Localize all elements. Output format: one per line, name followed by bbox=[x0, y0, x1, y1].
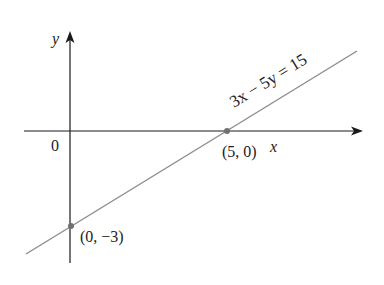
graph-canvas: y x 0 (5, 0) (0, −3) 3x − 5y = 15 bbox=[0, 0, 384, 285]
origin-label: 0 bbox=[51, 137, 59, 154]
x-intercept-point bbox=[224, 128, 230, 134]
y-intercept-point bbox=[68, 223, 74, 229]
x-intercept-label: (5, 0) bbox=[222, 143, 257, 161]
equation-label: 3x − 5y = 15 bbox=[226, 50, 310, 112]
equation-line bbox=[26, 51, 357, 254]
y-axis-label: y bbox=[50, 30, 60, 48]
y-intercept-label: (0, −3) bbox=[80, 228, 124, 246]
x-axis-label: x bbox=[269, 138, 277, 155]
